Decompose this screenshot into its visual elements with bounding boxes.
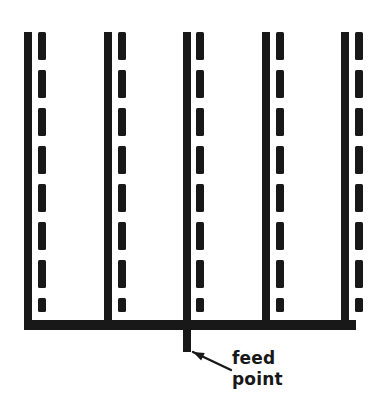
feed-point-stub [183, 330, 191, 352]
dashed-bar-3 [196, 32, 204, 312]
dash-segment [38, 298, 46, 312]
dash-segment [38, 146, 46, 174]
dash-segment [118, 298, 126, 312]
dash-segment [118, 32, 126, 60]
dash-segment [196, 32, 204, 60]
dash-segment [118, 222, 126, 250]
dashed-bar-4 [276, 32, 284, 312]
antenna-schematic-canvas: feed point [0, 0, 378, 410]
dash-segment [118, 70, 126, 98]
dash-segment [276, 146, 284, 174]
dash-segment [196, 70, 204, 98]
feed-bus-horizontal [24, 320, 356, 330]
solid-bar-1 [24, 32, 32, 330]
dash-segment [38, 32, 46, 60]
dash-segment [355, 298, 363, 312]
dash-segment [118, 146, 126, 174]
dash-segment [355, 70, 363, 98]
dash-segment [38, 222, 46, 250]
dashed-bar-5 [355, 32, 363, 312]
feed-point-label-line2: point [232, 369, 283, 389]
antenna-diagram: feed point [0, 0, 378, 410]
dash-segment [196, 108, 204, 136]
dash-segment [196, 222, 204, 250]
solid-bar-4 [262, 32, 270, 330]
solid-bar-2 [104, 32, 112, 330]
dash-segment [38, 108, 46, 136]
dash-segment [196, 184, 204, 212]
dash-segment [196, 146, 204, 174]
dashed-bar-2 [118, 32, 126, 312]
solid-bar-5 [341, 32, 349, 330]
dash-segment [38, 70, 46, 98]
dash-segment [276, 70, 284, 98]
dash-segment [38, 184, 46, 212]
dash-segment [196, 298, 204, 312]
dash-segment [118, 184, 126, 212]
dash-segment [276, 298, 284, 312]
dash-segment [276, 32, 284, 60]
dash-segment [355, 146, 363, 174]
dashed-bar-1 [38, 32, 46, 312]
solid-bar-3 [183, 32, 191, 330]
dash-segment [276, 108, 284, 136]
feed-point-label-line1: feed [232, 348, 275, 368]
dash-segment [276, 222, 284, 250]
dash-segment [355, 108, 363, 136]
dash-segment [355, 222, 363, 250]
dash-segment [196, 260, 204, 288]
dash-segment [355, 184, 363, 212]
dash-segment [355, 32, 363, 60]
dash-segment [355, 260, 363, 288]
dash-segment [276, 260, 284, 288]
dash-segment [276, 184, 284, 212]
dash-segment [118, 260, 126, 288]
dash-segment [118, 108, 126, 136]
dash-segment [38, 260, 46, 288]
